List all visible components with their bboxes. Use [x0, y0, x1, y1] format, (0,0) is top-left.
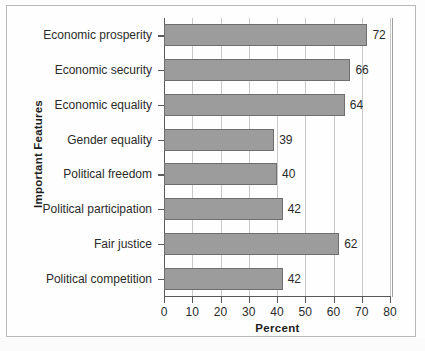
y-category-label: Economic security [0, 63, 152, 77]
y-category-label: Political freedom [0, 167, 152, 181]
bar-value-label: 39 [279, 133, 292, 147]
y-category-label: Fair justice [0, 237, 152, 251]
y-category-label: Gender equality [0, 133, 152, 147]
x-tick-0 [164, 297, 165, 303]
x-tick-50 [305, 297, 306, 303]
chart-page: 7266643940426242 Economic prosperityEcon… [0, 0, 425, 351]
x-tick-40 [277, 297, 278, 303]
x-tick-label-50: 50 [290, 305, 320, 319]
y-tick-2 [158, 105, 164, 106]
bar-value-label: 64 [350, 98, 363, 112]
bar-value-label: 72 [372, 28, 385, 42]
y-tick-0 [158, 35, 164, 36]
x-tick-30 [249, 297, 250, 303]
x-tick-label-30: 30 [234, 305, 264, 319]
bar [164, 268, 283, 290]
x-tick-70 [362, 297, 363, 303]
x-tick-label-0: 0 [149, 305, 179, 319]
bar-value-label: 62 [344, 237, 357, 251]
bar-value-label: 42 [288, 202, 301, 216]
bar [164, 163, 277, 185]
x-tick-10 [192, 297, 193, 303]
x-tick-60 [334, 297, 335, 303]
x-tick-label-10: 10 [177, 305, 207, 319]
gridline-80 [390, 18, 391, 297]
bar [164, 198, 283, 220]
x-tick-80 [390, 297, 391, 303]
y-category-label: Political participation [0, 202, 152, 216]
plot-right-border [392, 18, 393, 297]
bar-value-label: 42 [288, 272, 301, 286]
y-category-label: Economic prosperity [0, 28, 152, 42]
x-tick-label-40: 40 [262, 305, 292, 319]
scan-artifact-strip [0, 338, 425, 351]
y-axis-title: Important Features [32, 79, 44, 229]
y-tick-7 [158, 279, 164, 280]
bar [164, 59, 350, 81]
y-tick-5 [158, 209, 164, 210]
bar [164, 24, 367, 46]
y-category-label: Economic equality [0, 98, 152, 112]
y-tick-3 [158, 140, 164, 141]
x-tick-label-80: 80 [375, 305, 405, 319]
bar-value-label: 40 [282, 167, 295, 181]
bar [164, 233, 339, 255]
x-axis-title: Percent [164, 322, 391, 334]
y-tick-1 [158, 70, 164, 71]
x-tick-label-70: 70 [347, 305, 377, 319]
y-category-label: Political competition [0, 272, 152, 286]
x-tick-20 [221, 297, 222, 303]
bar-value-label: 66 [355, 63, 368, 77]
bar [164, 94, 345, 116]
bar [164, 129, 274, 151]
x-tick-label-20: 20 [206, 305, 236, 319]
y-tick-4 [158, 174, 164, 175]
x-tick-label-60: 60 [319, 305, 349, 319]
y-tick-6 [158, 244, 164, 245]
